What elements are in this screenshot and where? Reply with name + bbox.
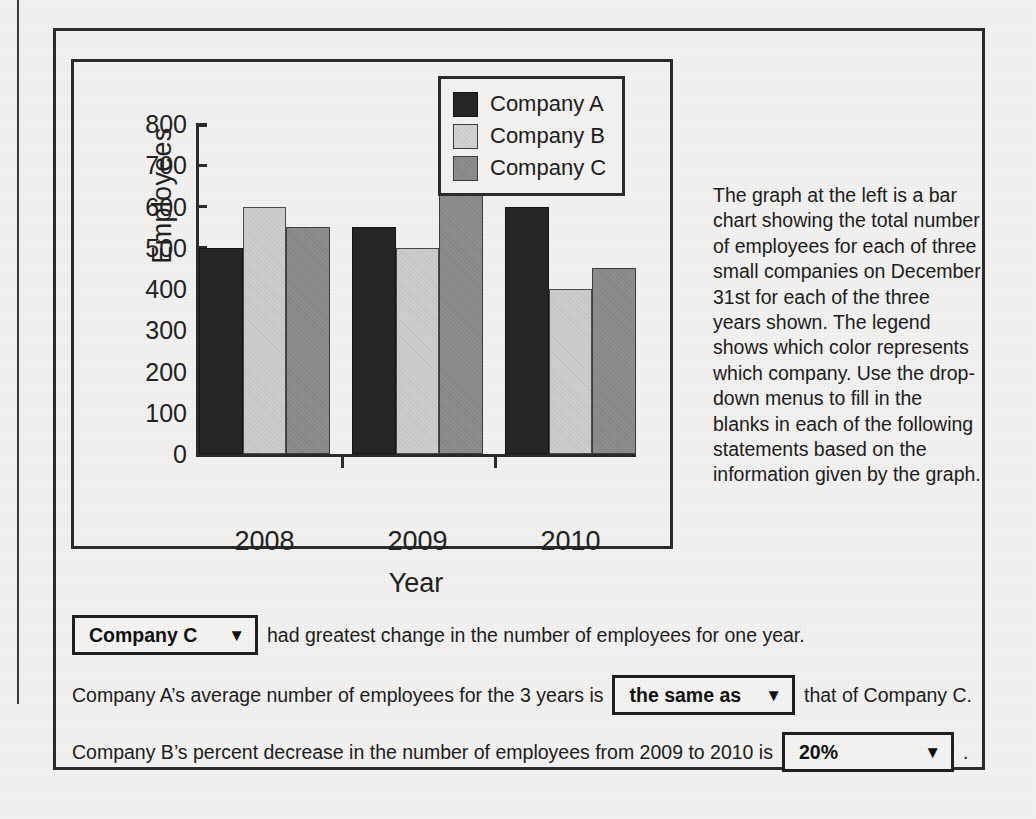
legend-label-company-c: Company C	[490, 155, 606, 181]
bar-2008-series-2	[243, 207, 287, 455]
statement-2-text-before: Company A’s average number of employees …	[72, 684, 603, 707]
chevron-down-icon: ▼	[228, 627, 245, 644]
bar-2009-series-2	[396, 248, 440, 454]
y-axis-tick-label: 0	[173, 440, 187, 469]
legend-label-company-a: Company A	[490, 91, 604, 117]
statement-2-text-after: that of Company C.	[804, 684, 972, 707]
statement-3-text-before: Company B’s percent decrease in the numb…	[72, 741, 773, 764]
y-axis-tick-label: 400	[145, 275, 187, 304]
dropdown-statement-2[interactable]: the same as ▼	[612, 675, 795, 715]
legend-item-company-a: Company A	[453, 88, 606, 120]
bar-2010-series-2	[549, 289, 593, 454]
legend-item-company-b: Company B	[453, 120, 606, 152]
y-axis-tick-label: 300	[145, 316, 187, 345]
bar-chart-panel: Employees 0100200300400500600700800 2008…	[71, 59, 673, 549]
statement-row-3: Company B’s percent decrease in the numb…	[72, 732, 972, 772]
y-axis-tick-label: 700	[145, 151, 187, 180]
x-axis-group-separator-tick	[494, 456, 497, 468]
y-axis-tick-label: 100	[145, 398, 187, 427]
question-description-text: The graph at the left is a bar chart sho…	[713, 183, 981, 488]
statements-band: Company C ▼ had greatest change in the n…	[56, 571, 988, 771]
legend-swatch-icon-company-a	[453, 92, 478, 117]
y-axis-tick-label: 800	[145, 110, 187, 139]
dropdown-value-statement-2: the same as	[629, 684, 741, 707]
bar-2009-series-1	[352, 227, 396, 454]
legend-swatch-icon-company-b	[453, 124, 478, 149]
y-axis-tick-label: 200	[145, 357, 187, 386]
statement-row-2: Company A’s average number of employees …	[72, 675, 972, 715]
x-axis-label-2008: 2008	[199, 526, 330, 557]
legend-label-company-b: Company B	[490, 123, 605, 149]
chart-legend: Company A Company B Company C	[438, 76, 625, 196]
chevron-down-icon: ▼	[924, 744, 941, 761]
bar-2008-series-3	[286, 227, 330, 454]
statement-row-1: Company C ▼ had greatest change in the n…	[72, 615, 972, 655]
x-axis-group-separator-tick	[341, 456, 344, 468]
chevron-down-icon: ▼	[765, 687, 782, 704]
x-axis-line	[196, 454, 636, 457]
legend-item-company-c: Company C	[453, 152, 606, 184]
x-axis-label-2010: 2010	[505, 526, 636, 557]
x-axis-label-2009: 2009	[352, 526, 483, 557]
dropdown-statement-1[interactable]: Company C ▼	[72, 615, 258, 655]
dropdown-value-statement-1: Company C	[89, 624, 197, 647]
dropdown-statement-3[interactable]: 20% ▼	[782, 732, 954, 772]
statement-1-text-after: had greatest change in the number of emp…	[267, 624, 805, 647]
bar-2009-series-3	[439, 186, 483, 454]
bar-2010-series-1	[505, 207, 549, 455]
bar-2010-series-3	[592, 268, 636, 454]
page-edge-rule	[17, 0, 19, 704]
dropdown-value-statement-3: 20%	[799, 741, 838, 764]
question-content-frame: Employees 0100200300400500600700800 2008…	[53, 28, 985, 770]
bar-2008-series-1	[199, 248, 243, 454]
chart-inner: Employees 0100200300400500600700800 2008…	[74, 62, 670, 546]
statement-3-text-after: .	[963, 741, 968, 764]
legend-swatch-icon-company-c	[453, 156, 478, 181]
y-axis-tick-label: 500	[145, 233, 187, 262]
y-axis-tick-label: 600	[145, 192, 187, 221]
chart-and-description-band: Employees 0100200300400500600700800 2008…	[56, 31, 988, 561]
